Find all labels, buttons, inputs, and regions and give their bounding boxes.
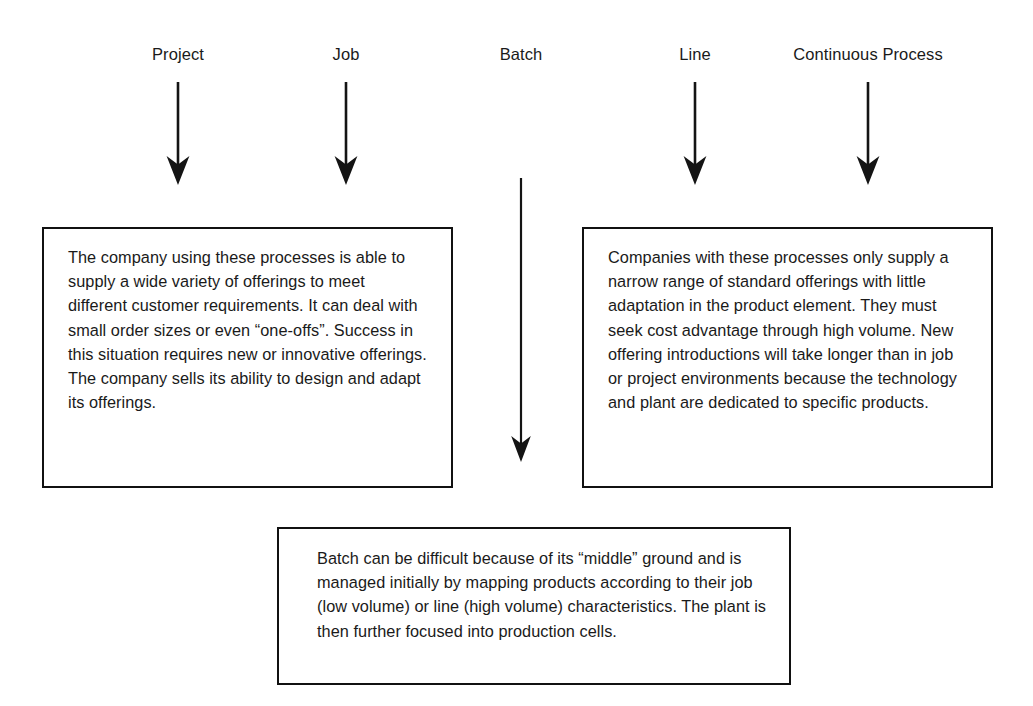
column-header-continuous-process: Continuous Process <box>793 44 942 64</box>
description-box-batch-text: Batch can be difficult because of its “m… <box>317 546 767 643</box>
column-header-batch: Batch <box>500 44 543 64</box>
down-arrow-icon-line <box>681 82 709 186</box>
description-box-low-volume-text: The company using these processes is abl… <box>68 245 428 414</box>
diagram-canvas: Project Job Batch Line Continuous Proces… <box>0 0 1033 706</box>
column-header-job: Job <box>333 44 360 64</box>
description-box-batch: Batch can be difficult because of its “m… <box>277 527 791 685</box>
down-arrow-icon-continuous-process <box>854 82 882 186</box>
down-arrow-icon-job <box>332 82 360 186</box>
description-box-high-volume: Companies with these processes only supp… <box>582 227 993 488</box>
description-box-high-volume-text: Companies with these processes only supp… <box>608 245 968 414</box>
column-header-project: Project <box>152 44 204 64</box>
column-header-line: Line <box>679 44 711 64</box>
description-box-low-volume: The company using these processes is abl… <box>42 227 453 488</box>
down-arrow-icon-project <box>164 82 192 186</box>
down-arrow-icon-batch <box>508 178 534 463</box>
